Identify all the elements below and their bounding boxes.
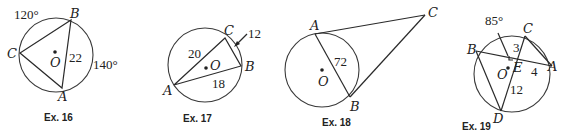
center-label: O — [210, 58, 221, 73]
inscribed-triangle — [20, 20, 71, 88]
segment-label-ab: 72 — [334, 54, 347, 69]
segment-label-ce: 3 — [513, 40, 520, 55]
center-point — [53, 50, 57, 54]
segment-label-ac: 20 — [188, 46, 201, 61]
caption: Ex. 16 — [44, 112, 73, 123]
point-b-label: B — [69, 6, 80, 21]
center-point — [204, 66, 208, 70]
arc-label-ba: 140° — [93, 57, 118, 72]
point-e-label: E — [512, 60, 523, 75]
tangent-bc — [350, 15, 425, 97]
point-a-label: A — [162, 83, 172, 98]
center-label: O — [497, 67, 508, 82]
circle — [168, 28, 242, 102]
caption: Ex. 18 — [322, 117, 351, 128]
point-a-label: A — [547, 59, 557, 74]
center-label: O — [318, 74, 329, 89]
segment-label-cb: 12 — [248, 26, 261, 41]
point-c-label: C — [224, 23, 234, 38]
point-b-label: B — [349, 99, 360, 114]
arc-label-cb: 120° — [14, 7, 39, 22]
point-c-label: C — [7, 46, 17, 61]
geometry-exercises: O B C A 120° 140° 22 Ex. 16 O C B A 20 1… — [0, 0, 561, 136]
figure-ex16: O B C A 120° 140° 22 Ex. 16 — [7, 6, 118, 123]
segment-label-ed: 12 — [510, 82, 523, 97]
tangent-ac — [315, 15, 425, 34]
segment-label-ab: 18 — [212, 76, 225, 91]
arc-label: 85° — [485, 13, 503, 28]
point-b-label: B — [466, 42, 477, 57]
inscribed-triangle — [174, 38, 241, 85]
point-a-label: A — [57, 89, 67, 104]
center-label: O — [50, 55, 61, 70]
figure-ex18: O A B C 72 Ex. 18 — [285, 5, 438, 128]
point-c-label: C — [428, 5, 438, 20]
caption: Ex. 19 — [462, 121, 491, 132]
caption: Ex. 17 — [183, 113, 212, 124]
figure-ex17: O C B A 20 18 12 Ex. 17 — [162, 23, 261, 124]
point-b-label: B — [244, 59, 255, 74]
segment-label-ea: 4 — [531, 64, 538, 79]
segment-label-ab: 22 — [69, 50, 82, 65]
figure-ex19: O E C B A D 85° 3 4 12 Ex. 19 — [462, 13, 557, 132]
center-point — [320, 68, 324, 72]
point-c-label: C — [523, 21, 533, 36]
point-d-label: D — [492, 111, 504, 126]
point-a-label: A — [309, 18, 319, 33]
